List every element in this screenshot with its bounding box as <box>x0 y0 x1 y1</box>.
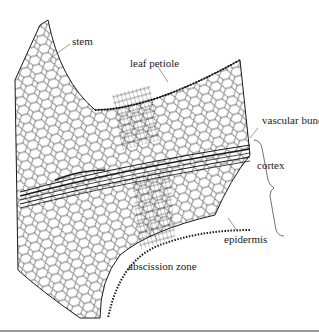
epidermis-leader <box>228 218 238 232</box>
label-vascular-bundle: vascular bundle <box>262 115 319 126</box>
label-abscission-zone: abscission zone <box>128 261 197 272</box>
label-leaf-petiole: leaf petiole <box>130 58 179 69</box>
cortex-brace <box>254 140 284 236</box>
label-epidermis: epidermis <box>224 234 267 245</box>
label-cortex: cortex <box>257 160 284 171</box>
vascular-bundle-leader <box>250 128 258 138</box>
leaf-petiole-leader <box>158 67 168 82</box>
label-stem: stem <box>72 36 93 47</box>
bottom-rule <box>0 330 319 332</box>
